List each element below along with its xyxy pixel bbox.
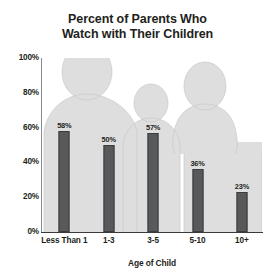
- chart-container: Percent of Parents Who Watch with Their …: [0, 0, 275, 278]
- chart-title: Percent of Parents Who Watch with Their …: [0, 12, 275, 42]
- bar-1-3[interactable]: [103, 145, 114, 232]
- x-axis-line: [41, 232, 263, 233]
- x-tick-label-less-than-1: Less Than 1: [41, 236, 87, 246]
- y-tick-label: 80%: [3, 89, 39, 97]
- x-tick-label-5-10: 5-10: [190, 236, 206, 246]
- y-tick-label: 100%: [3, 54, 39, 62]
- chart-title-line-1: Percent of Parents Who: [0, 12, 275, 27]
- bar-value-label: 36%: [190, 160, 204, 168]
- y-tick-label: 0%: [3, 228, 39, 236]
- y-tick-label: 60%: [3, 124, 39, 132]
- bar-10-plus[interactable]: [236, 192, 247, 232]
- bar-5-10[interactable]: [192, 169, 203, 232]
- bar-value-label: 57%: [146, 124, 160, 132]
- bar-3-5[interactable]: [148, 133, 159, 232]
- bar-value-label: 23%: [235, 183, 249, 191]
- y-axis-ticks: 100% 80% 60% 40% 20% 0%: [0, 0, 39, 278]
- x-axis-ticks: Less Than 1 1-3 3-5 5-10 10+: [41, 236, 263, 250]
- chart-title-line-2: Watch with Their Children: [0, 27, 275, 42]
- bars-layer: 58% 50% 57% 36% 23%: [41, 58, 263, 232]
- x-tick-label-1-3: 1-3: [103, 236, 115, 246]
- bar-less-than-1[interactable]: [59, 131, 70, 232]
- y-tick-label: 20%: [3, 193, 39, 201]
- x-axis-title: Age of Child: [41, 258, 263, 268]
- bar-value-label: 50%: [102, 136, 116, 144]
- x-tick-label-3-5: 3-5: [147, 236, 159, 246]
- bar-value-label: 58%: [57, 122, 71, 130]
- y-tick-label: 40%: [3, 158, 39, 166]
- x-tick-label-10-plus: 10+: [235, 236, 249, 246]
